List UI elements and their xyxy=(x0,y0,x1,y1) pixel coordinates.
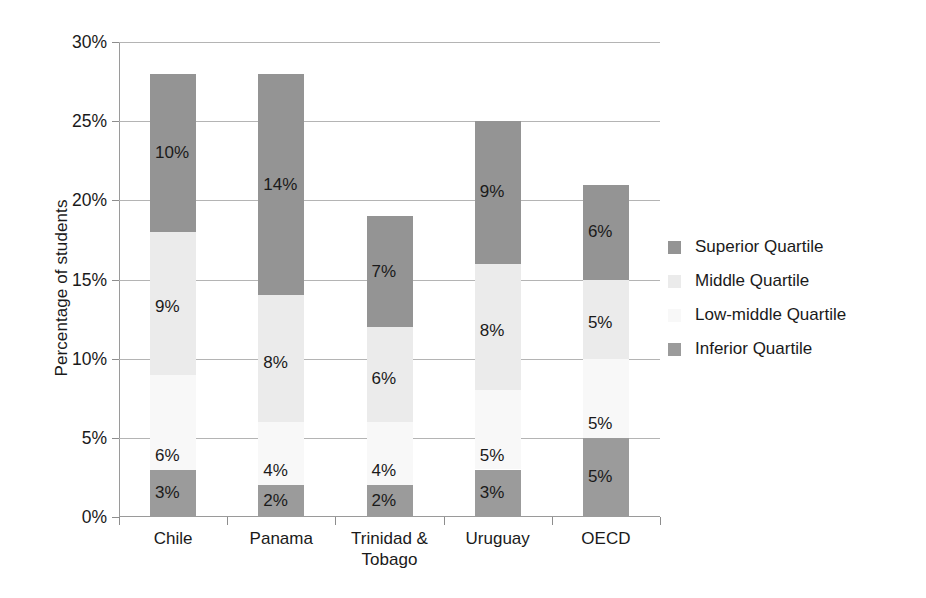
bar-value-label: 2% xyxy=(263,492,288,509)
bar-stack[interactable]: 5%5%5%6% xyxy=(583,42,629,517)
x-axis-label: OECD xyxy=(552,529,660,550)
bar-value-label: 5% xyxy=(588,468,613,485)
x-axis-label-line: Chile xyxy=(119,529,227,550)
bar-value-label: 3% xyxy=(155,484,180,501)
legend-label: Superior Quartile xyxy=(695,237,824,257)
x-axis-label-line: Uruguay xyxy=(444,529,552,550)
bar-value-label: 6% xyxy=(155,447,180,464)
y-tick-mark xyxy=(112,121,119,122)
legend-swatch-icon xyxy=(668,343,681,356)
y-tick-mark xyxy=(112,200,119,201)
chart-legend: Superior QuartileMiddle QuartileLow-midd… xyxy=(668,230,918,366)
y-tick-mark xyxy=(112,280,119,281)
x-tick-mark xyxy=(660,517,661,525)
bar-stack[interactable]: 2%4%6%7% xyxy=(367,42,413,517)
x-axis-label-line: Trinidad & xyxy=(335,529,443,550)
bar-value-label: 8% xyxy=(480,322,505,339)
y-tick-mark xyxy=(112,42,119,43)
x-axis-label: Panama xyxy=(227,529,335,550)
y-tick-label: 15% xyxy=(72,269,107,290)
legend-swatch-icon xyxy=(668,275,681,288)
legend-item[interactable]: Superior Quartile xyxy=(668,230,918,264)
bar-value-label: 3% xyxy=(480,484,505,501)
bar-value-label: 5% xyxy=(588,415,613,432)
legend-label: Middle Quartile xyxy=(695,271,809,291)
legend-item[interactable]: Low-middle Quartile xyxy=(668,298,918,332)
bar-value-label: 8% xyxy=(263,354,288,371)
legend-item[interactable]: Inferior Quartile xyxy=(668,332,918,366)
y-tick-label: 0% xyxy=(82,507,107,528)
y-tick-label: 30% xyxy=(72,32,107,53)
plot-area: 0%5%10%15%20%25%30% 3%6%9%10%2%4%8%14%2%… xyxy=(119,42,660,517)
bar-value-label: 10% xyxy=(155,144,189,161)
bar-value-label: 5% xyxy=(480,447,505,464)
x-tick-mark xyxy=(119,517,120,525)
y-tick-mark xyxy=(112,359,119,360)
x-tick-mark xyxy=(335,517,336,525)
x-tick-mark xyxy=(552,517,553,525)
y-tick-label: 10% xyxy=(72,348,107,369)
bar-value-label: 6% xyxy=(372,370,397,387)
bar-value-label: 14% xyxy=(263,176,297,193)
legend-swatch-icon xyxy=(668,309,681,322)
y-tick-label: 25% xyxy=(72,111,107,132)
bar-value-label: 4% xyxy=(263,462,288,479)
x-tick-mark xyxy=(227,517,228,525)
y-axis-title: Percentage of students xyxy=(52,138,72,438)
bar-value-label: 5% xyxy=(588,314,613,331)
bar-stack[interactable]: 3%5%8%9% xyxy=(475,42,521,517)
bar-value-label: 4% xyxy=(372,462,397,479)
y-tick-label: 20% xyxy=(72,190,107,211)
legend-item[interactable]: Middle Quartile xyxy=(668,264,918,298)
legend-swatch-icon xyxy=(668,241,681,254)
bar-stack[interactable]: 2%4%8%14% xyxy=(258,42,304,517)
x-axis-label-line: OECD xyxy=(552,529,660,550)
x-axis-label: Trinidad &Tobago xyxy=(335,529,443,570)
bar-value-label: 9% xyxy=(155,298,180,315)
x-axis-label: Uruguay xyxy=(444,529,552,550)
x-axis-label-line: Tobago xyxy=(335,550,443,571)
bar-stack[interactable]: 3%6%9%10% xyxy=(150,42,196,517)
y-tick-mark xyxy=(112,517,119,518)
bar-value-label: 7% xyxy=(372,263,397,280)
legend-label: Low-middle Quartile xyxy=(695,305,846,325)
bar-value-label: 6% xyxy=(588,223,613,240)
y-tick-mark xyxy=(112,438,119,439)
bar-value-label: 2% xyxy=(372,492,397,509)
x-tick-mark xyxy=(444,517,445,525)
x-axis-label: Chile xyxy=(119,529,227,550)
bar-value-label: 9% xyxy=(480,183,505,200)
x-axis-label-line: Panama xyxy=(227,529,335,550)
legend-label: Inferior Quartile xyxy=(695,339,812,359)
y-tick-label: 5% xyxy=(82,427,107,448)
stacked-bar-chart: Percentage of students 0%5%10%15%20%25%3… xyxy=(0,0,926,598)
